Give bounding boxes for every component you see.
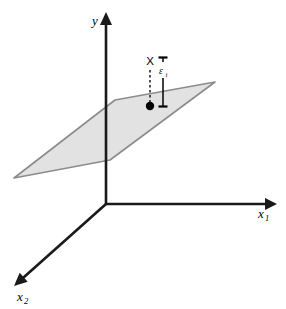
axis-y-arrowhead — [100, 12, 112, 25]
residual-label-subscript: i — [166, 71, 168, 79]
axis-label-x2-base: x — [16, 289, 23, 304]
axis-label-x2-subscript: 2 — [24, 296, 29, 306]
observation-label: X — [146, 55, 154, 67]
figure-canvas: y x 1 x 2 X ε i — [0, 0, 286, 309]
axis-x2 — [14, 204, 106, 286]
observation-point — [146, 102, 154, 110]
axis-x1 — [106, 198, 277, 210]
residual-label: ε i — [159, 66, 168, 79]
axis-label-y: y — [90, 13, 98, 28]
residual-label-base: ε — [159, 66, 163, 76]
axis-label-x1-base: x — [257, 206, 264, 221]
regression-plane — [14, 82, 215, 178]
axis-label-x1-subscript: 1 — [265, 213, 269, 223]
axis-x1-arrowhead — [265, 198, 277, 210]
axis-label-x2: x 2 — [16, 289, 29, 306]
axis-x2-line — [21, 204, 106, 280]
regression-plane-figure: y x 1 x 2 X ε i — [0, 0, 286, 309]
